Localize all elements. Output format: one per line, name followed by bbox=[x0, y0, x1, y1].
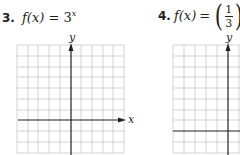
x-axis-arrow-icon bbox=[118, 118, 126, 123]
graph-grid-4 bbox=[173, 45, 240, 153]
axes bbox=[18, 47, 122, 155]
graph-grid-3 bbox=[0, 0, 240, 155]
y-axis-arrow-icon bbox=[226, 43, 231, 51]
y-axis-arrow-icon bbox=[69, 43, 74, 51]
y-axis-label: y bbox=[226, 32, 232, 43]
x-axis-label: x bbox=[128, 114, 134, 125]
y-axis-label: y bbox=[69, 32, 75, 43]
